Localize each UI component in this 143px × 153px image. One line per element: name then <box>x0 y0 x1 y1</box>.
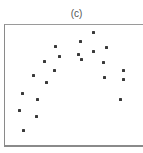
data-point <box>21 92 24 95</box>
data-point <box>92 31 95 34</box>
data-point <box>80 58 83 61</box>
data-point <box>122 78 125 81</box>
data-point <box>77 53 80 56</box>
data-point <box>102 61 105 64</box>
data-point <box>22 129 25 132</box>
data-point <box>43 60 46 63</box>
data-point <box>18 109 21 112</box>
data-point <box>54 45 57 48</box>
data-point <box>58 55 61 58</box>
data-point <box>119 98 122 101</box>
data-point <box>79 40 82 43</box>
data-point <box>53 69 56 72</box>
data-point <box>92 50 95 53</box>
data-point <box>45 81 48 84</box>
data-point <box>35 115 38 118</box>
plot-area <box>0 0 143 153</box>
data-point <box>105 46 108 49</box>
data-point <box>122 69 125 72</box>
scatter-figure: (c) <box>0 0 143 153</box>
data-point <box>36 98 39 101</box>
data-point <box>32 74 35 77</box>
data-point <box>103 76 106 79</box>
